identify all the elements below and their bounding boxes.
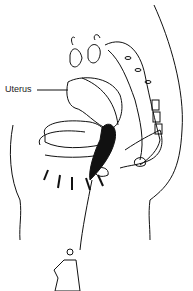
uterus-label: Uterus	[5, 84, 32, 94]
pelvis-sagittal-drawing	[0, 0, 193, 291]
